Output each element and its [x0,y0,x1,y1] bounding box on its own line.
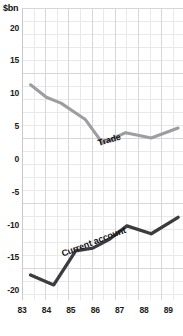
x-axis-tick-label: 84 [42,306,51,315]
y-axis-tick-label: -10 [7,221,19,230]
y-axis-tick-label: -5 [12,188,19,197]
x-axis-labels: 83848586878889 [0,306,183,322]
y-axis-labels: 20151050-5-10-15-20 [0,0,19,336]
x-axis-tick-label: 85 [66,306,75,315]
series-layer [0,0,183,336]
x-axis-tick-label: 87 [115,306,124,315]
y-axis-tick-label: 20 [10,24,19,33]
x-axis-tick-label: 88 [139,306,148,315]
y-axis-tick-label: -20 [7,286,19,295]
x-axis-tick-label: 89 [164,306,173,315]
y-axis-tick-label: -15 [7,253,19,262]
y-axis-tick-label: 10 [10,89,19,98]
x-axis-tick-label: 83 [17,306,26,315]
y-axis-tick-label: 0 [14,155,19,164]
x-axis-tick-label: 86 [91,306,100,315]
series-line-current-account [31,217,179,285]
y-axis-tick-label: 15 [10,56,19,65]
line-chart: $bn Trade Current account 20151050-5-10-… [0,0,183,336]
series-line-trade [31,85,179,143]
y-axis-tick-label: 5 [14,122,19,131]
